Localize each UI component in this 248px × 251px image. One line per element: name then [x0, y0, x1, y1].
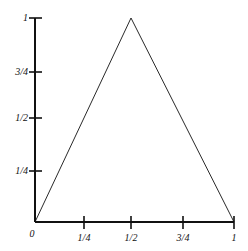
x-label-3-4: 3/4: [170, 233, 196, 243]
y-label-1-4: 1/4: [2, 166, 28, 176]
y-label-3-4: 3/4: [2, 67, 28, 77]
origin-label: 0: [19, 229, 45, 239]
x-label-1: 1: [221, 233, 247, 243]
y-label-1-2: 1/2: [2, 113, 28, 123]
chart-canvas: [0, 0, 248, 251]
y-label-1: 1: [2, 13, 28, 23]
triangle-curve: [35, 18, 234, 222]
x-label-1-2: 1/2: [118, 233, 144, 243]
x-label-1-4: 1/4: [71, 233, 97, 243]
